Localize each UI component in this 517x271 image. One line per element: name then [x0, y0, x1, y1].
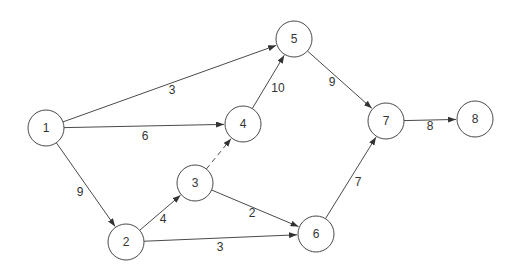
node-label: 3 [192, 176, 199, 190]
edge-weight-label: 4 [160, 212, 167, 226]
edge-weight-label: 7 [355, 175, 362, 189]
edges-layer [56, 45, 456, 241]
node-label: 1 [43, 121, 50, 135]
edge-weight-label: 9 [77, 185, 84, 199]
node-1: 1 [28, 110, 64, 146]
node-label: 2 [123, 235, 130, 249]
edge-1-to-4 [64, 124, 224, 127]
node-7: 7 [368, 103, 404, 139]
edge-5-to-7 [307, 51, 371, 108]
node-6: 6 [298, 216, 334, 252]
edge-weight-label: 9 [329, 75, 336, 89]
node-3: 3 [177, 165, 213, 201]
edge-weight-label: 6 [142, 129, 149, 143]
edge-weight-label: 10 [271, 81, 285, 95]
edge-weight-label: 2 [249, 206, 256, 220]
edge-1-to-2 [56, 143, 115, 227]
edge-3-to-4 [206, 139, 231, 169]
edge-6-to-7 [325, 137, 376, 219]
node-5: 5 [276, 21, 312, 57]
network-diagram: 36943210978 12345678 [0, 0, 517, 271]
diagram-svg: 36943210978 12345678 [0, 0, 517, 271]
node-label: 4 [240, 117, 247, 131]
node-label: 7 [383, 114, 390, 128]
edge-weight-label: 8 [427, 119, 434, 133]
node-2: 2 [108, 224, 144, 260]
node-label: 8 [472, 112, 479, 126]
node-label: 6 [313, 227, 320, 241]
edge-weight-label: 3 [217, 240, 224, 254]
node-8: 8 [457, 101, 493, 137]
nodes-layer: 12345678 [28, 21, 493, 260]
node-4: 4 [225, 106, 261, 142]
node-label: 5 [291, 32, 298, 46]
edge-weight-label: 3 [169, 83, 176, 97]
